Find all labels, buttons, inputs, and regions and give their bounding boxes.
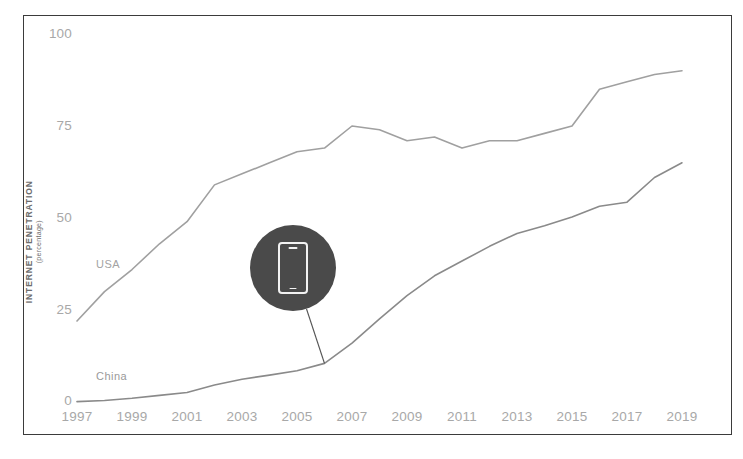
y-tick-label-0: 0 <box>28 393 72 408</box>
y-tick-label-75: 75 <box>28 118 72 133</box>
x-tick-label-2003: 2003 <box>219 409 265 424</box>
x-tick-label-1999: 1999 <box>109 409 155 424</box>
x-tick-label-2001: 2001 <box>164 409 210 424</box>
x-tick-label-2007: 2007 <box>329 409 375 424</box>
chart-figure: INTERNET PENETRATION (percentage) 100 75… <box>0 0 743 459</box>
x-tick-label-2011: 2011 <box>439 409 485 424</box>
y-axis-unit-text: (percentage) <box>35 162 44 322</box>
x-tick-label-2013: 2013 <box>494 409 540 424</box>
y-axis-title-text: INTERNET PENETRATION <box>24 180 34 303</box>
x-tick-label-2015: 2015 <box>549 409 595 424</box>
x-tick-label-2019: 2019 <box>659 409 705 424</box>
x-tick-label-2009: 2009 <box>384 409 430 424</box>
smartphone-icon <box>278 242 308 294</box>
x-tick-label-2017: 2017 <box>604 409 650 424</box>
y-tick-label-25: 25 <box>28 302 72 317</box>
series-label-usa: USA <box>96 258 120 270</box>
chart-plot-frame <box>23 15 732 435</box>
x-tick-label-1997: 1997 <box>54 409 100 424</box>
mobile-callout-badge[interactable] <box>250 225 336 311</box>
y-tick-label-100: 100 <box>28 26 72 41</box>
series-label-china: China <box>96 370 127 382</box>
y-axis-title: INTERNET PENETRATION (percentage) <box>24 162 43 322</box>
y-tick-label-50: 50 <box>28 210 72 225</box>
x-tick-label-2005: 2005 <box>274 409 320 424</box>
